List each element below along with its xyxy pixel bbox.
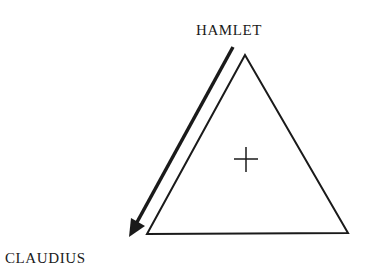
arrow-hamlet-to-claudius (129, 47, 233, 237)
node-label-claudius: CLAUDIUS (5, 251, 86, 266)
triangle (147, 55, 348, 234)
triangle-diagram (0, 0, 369, 278)
node-label-hamlet: HAMLET (196, 23, 262, 38)
plus-sign (234, 147, 258, 172)
